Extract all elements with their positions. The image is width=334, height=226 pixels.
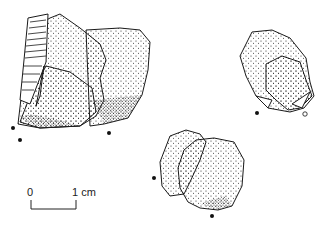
orientation-dot bbox=[18, 138, 22, 142]
artifact-left bbox=[18, 14, 150, 128]
orientation-dot bbox=[152, 176, 156, 180]
artifact-bottom bbox=[160, 130, 244, 210]
scale-end-label: 1 cm bbox=[72, 186, 96, 198]
orientation-dot bbox=[107, 131, 111, 135]
orientation-dot bbox=[210, 214, 214, 218]
orientation-dot bbox=[255, 111, 259, 115]
orientation-circle bbox=[303, 112, 307, 116]
figure-canvas bbox=[0, 0, 334, 226]
scale-start-label: 0 bbox=[27, 186, 33, 198]
scale-bar bbox=[31, 200, 76, 209]
artifact-right bbox=[240, 30, 314, 112]
orientation-dot bbox=[11, 126, 15, 130]
